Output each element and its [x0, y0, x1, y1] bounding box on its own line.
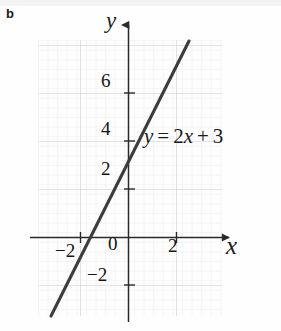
equation-variable: x: [184, 124, 193, 148]
x-tick-label-minus-2: −2: [55, 240, 75, 262]
equation-label: y=2x+3: [144, 124, 223, 149]
x-tick-label-0: 0: [108, 233, 118, 255]
equation-coefficient: 2: [173, 124, 184, 148]
y-tick-label-6: 6: [101, 70, 111, 92]
y-tick-label-minus-2: −2: [87, 264, 107, 286]
equation-plus: +: [197, 124, 209, 148]
y-tick-label-2: 2: [101, 158, 111, 180]
grid-major: [38, 40, 222, 316]
x-tick-label-2: 2: [168, 235, 178, 257]
x-axis-name: x: [226, 232, 237, 260]
equation-equals: =: [157, 124, 169, 148]
equation-lhs: y: [144, 124, 153, 148]
y-axis-name: y: [106, 8, 116, 34]
y-tick-label-4: 4: [101, 118, 111, 140]
figure-container: b: [0, 0, 281, 331]
equation-constant: 3: [213, 124, 224, 148]
coordinate-plot: [0, 0, 281, 331]
